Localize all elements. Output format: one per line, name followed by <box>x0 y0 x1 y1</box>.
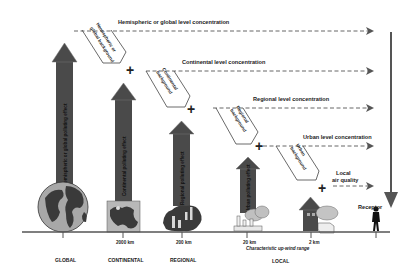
svg-text:Hemispheric or global pollutin: Hemispheric or global polluting effect <box>63 103 68 186</box>
local-air-quality-label-line1: Local <box>336 170 351 176</box>
continental-concentration-label: Continental level concentration <box>182 59 266 65</box>
person-icon <box>372 206 380 231</box>
receptor-down-arrow <box>384 32 398 208</box>
distance-label-urban: 20 km <box>243 240 256 245</box>
continental-polluting-arrow: Continental polluting effect <box>111 83 136 202</box>
background-box-hemispheric: Hemispheric or global background <box>82 22 126 64</box>
global-polluting-arrow: Hemispheric or global polluting effect <box>52 43 77 194</box>
globe-icon <box>38 182 88 232</box>
regional-polluting-arrow: Regional polluting effect <box>169 121 194 206</box>
urban-concentration-label: Urban level concentration <box>303 134 372 140</box>
distance-label-regional: 200 km <box>176 240 192 245</box>
plus-icon: + <box>187 101 195 117</box>
distance-label-local: 2 km <box>309 240 319 245</box>
background-box-regional: Regional background <box>216 105 258 144</box>
plus-icon: + <box>318 180 326 196</box>
receptor-label: Receptor <box>358 204 383 210</box>
background-box-continental: Continental background <box>146 67 190 107</box>
factory-icon <box>234 206 269 231</box>
urban-polluting-arrow: Urban polluting effect <box>236 157 260 213</box>
scale-label-local: LOCAL <box>272 258 289 264</box>
local-air-quality-label-line2: air quality <box>332 177 359 183</box>
background-box-urban: Urban background <box>276 143 319 180</box>
distance-axis <box>22 232 390 238</box>
scale-label-regional: REGIONAL <box>170 257 196 263</box>
distance-label-continental: 2000 km <box>116 240 134 245</box>
scale-label-continental: CONTINENTAL <box>108 257 143 263</box>
svg-text:Urban polluting effect: Urban polluting effect <box>246 164 251 212</box>
hemispheric-concentration-label: Hemispheric or global level concentratio… <box>118 19 230 25</box>
regional-concentration-label: Regional level concentration <box>253 96 330 102</box>
range-caption: Characteristic up-wind range <box>246 246 310 251</box>
plus-icon: + <box>126 62 134 78</box>
air-quality-scale-diagram: Hemispheric or global level concentratio… <box>0 0 417 277</box>
continent-map-icon <box>107 201 140 232</box>
svg-text:Regional polluting effect: Regional polluting effect <box>180 151 185 205</box>
regional-map-icon <box>163 206 202 232</box>
svg-text:Continental polluting effect: Continental polluting effect <box>122 136 127 196</box>
plus-icon: + <box>255 138 263 154</box>
scale-label-global: GLOBAL <box>55 257 76 263</box>
